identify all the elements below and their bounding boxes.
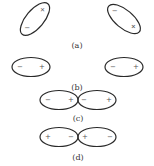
dipole-d-right: + −: [78, 128, 116, 147]
caption-a: (a): [71, 41, 82, 50]
caption-c: (c): [73, 114, 84, 123]
dipole-a-right: − +: [103, 0, 145, 39]
dipole-b-right: − +: [105, 58, 143, 77]
right-sign: −: [107, 133, 113, 141]
dipole-outline: [103, 0, 145, 39]
positive-sign: +: [38, 5, 48, 15]
left-sign: −: [110, 63, 116, 71]
dipole-c-left: − +: [40, 91, 78, 110]
panel-a: − + − + (a): [15, 0, 145, 49]
right-sign: +: [133, 63, 139, 71]
right-sign: +: [106, 96, 112, 104]
left-sign: −: [45, 96, 51, 104]
right-sign: −: [68, 133, 74, 141]
left-sign: −: [81, 96, 87, 104]
negative-sign: −: [112, 7, 118, 15]
dipole-d-left: + −: [40, 128, 78, 147]
dipole-a-left: − +: [15, 0, 55, 40]
left-sign: +: [45, 133, 51, 141]
left-sign: −: [17, 63, 23, 71]
dipole-diagram: − + − + (a) − + − + (b) − +: [0, 0, 154, 166]
dipole-c-right: − +: [78, 91, 116, 110]
left-sign: +: [82, 133, 88, 141]
caption-b: (b): [71, 83, 82, 92]
dipole-outline: [15, 0, 55, 40]
dipole-b-left: − +: [12, 58, 50, 77]
caption-d: (d): [72, 153, 83, 162]
right-sign: +: [39, 63, 45, 71]
panel-d: + − + − (d): [40, 128, 116, 162]
panel-b: − + − + (b): [12, 58, 143, 92]
panel-c: − + − + (c): [40, 91, 116, 123]
right-sign: +: [68, 96, 74, 104]
negative-sign: −: [24, 24, 30, 32]
positive-sign: +: [128, 22, 138, 32]
